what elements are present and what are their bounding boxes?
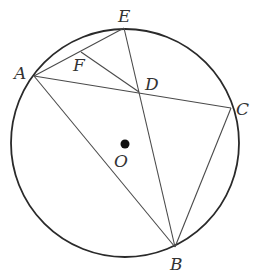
center-point-o	[121, 140, 130, 149]
label-point-b: B	[169, 254, 183, 274]
label-point-f: F	[72, 55, 86, 75]
segment-ac	[34, 76, 231, 108]
segments-group	[34, 28, 231, 247]
point-labels: AECBDFO	[12, 6, 249, 274]
label-point-e: E	[117, 6, 131, 26]
label-point-a: A	[12, 63, 26, 83]
label-point-c: C	[236, 99, 249, 119]
segment-eb	[124, 28, 175, 247]
label-point-d: D	[144, 74, 159, 94]
geometry-diagram: AECBDFO	[0, 0, 254, 275]
segment-ab	[34, 76, 175, 247]
segment-fd	[81, 52, 139, 92]
label-point-o: O	[114, 151, 128, 171]
